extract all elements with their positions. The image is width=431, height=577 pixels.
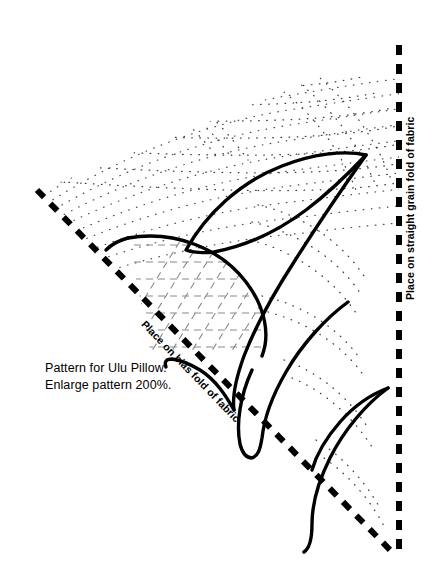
echo-quilting-fan	[44, 78, 409, 285]
straight-grain-fold-label: Place on straight grain fold of fabric	[404, 117, 416, 301]
lower-hook-petal	[304, 388, 388, 552]
pattern-page: Pattern for Ulu Pillow. Enlarge pattern …	[0, 0, 431, 577]
lower-hook-petal-inner	[312, 388, 388, 470]
caption-line-1: Pattern for Ulu Pillow.	[45, 360, 172, 377]
upper-leaf-blade	[186, 153, 366, 253]
caption-line-2: Enlarge pattern 200%.	[45, 377, 172, 394]
ulu-motif-outlines	[106, 153, 388, 552]
inner-leaf-blade	[233, 155, 366, 410]
caption-block: Pattern for Ulu Pillow. Enlarge pattern …	[45, 360, 172, 394]
pattern-artwork	[0, 0, 431, 577]
rosette-left-tail	[106, 238, 128, 250]
crosshatch-quilting	[100, 225, 310, 370]
echo-quilting-dots	[44, 44, 403, 526]
